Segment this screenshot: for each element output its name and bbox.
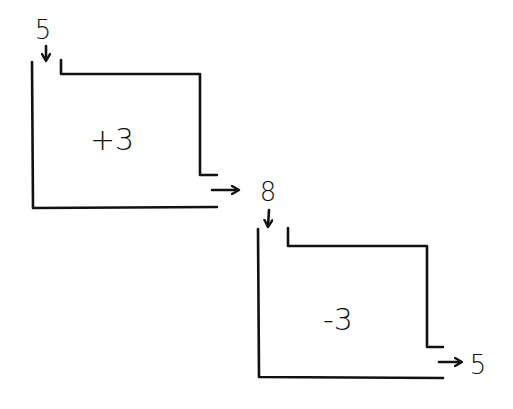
start-input-value: 5 — [35, 17, 52, 43]
input-arrow-2 — [268, 210, 269, 226]
diagram-canvas — [0, 0, 513, 409]
box1-operation-label: +3 — [90, 125, 134, 155]
final-output-value: 5 — [470, 352, 487, 378]
box2-operation-label: -3 — [323, 305, 353, 335]
middle-value: 8 — [260, 179, 277, 205]
box1-top-wall — [61, 60, 217, 175]
box2-top-wall — [288, 228, 443, 347]
